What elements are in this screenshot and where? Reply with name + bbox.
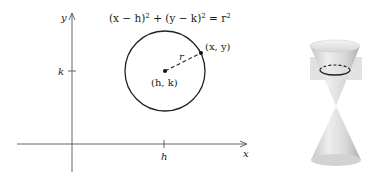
cone-diagram [310,40,362,166]
center-point [163,69,167,73]
circle-diagram: x y h k (x − h)2 + (y − k)2 = r2 r (h, k… [17,12,249,172]
center-label: (h, k) [151,77,178,88]
conic-figure: x y h k (x − h)2 + (y − k)2 = r2 r (h, k… [0,0,378,180]
point-label: (x, y) [205,41,231,52]
circle-equation: (x − h)2 + (y − k)2 = r2 [109,12,231,24]
y-axis [69,13,75,172]
lower-cone [311,106,361,160]
k-tick-label: k [58,66,64,77]
y-axis-label: y [60,12,67,23]
point-on-circle [199,51,203,55]
lower-cone-base [311,154,361,166]
radius-label: r [179,51,185,62]
x-axis-label: x [243,148,249,159]
upper-cone-rim [310,40,360,52]
x-axis [17,141,247,147]
h-tick-label: h [161,151,167,162]
